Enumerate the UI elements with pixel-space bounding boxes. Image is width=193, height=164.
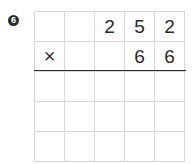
- multiplier-digit: 6: [125, 42, 155, 72]
- multiplier-digit: 6: [155, 42, 185, 72]
- grid-cell: [35, 12, 65, 42]
- answer-cell[interactable]: [155, 132, 185, 162]
- multiplicand-digit: 2: [95, 12, 125, 42]
- grid-cell: [95, 42, 125, 72]
- answer-cell[interactable]: [95, 72, 125, 102]
- answer-cell[interactable]: [65, 102, 95, 132]
- multiply-sign: ×: [35, 42, 65, 72]
- answer-cell[interactable]: [65, 72, 95, 102]
- multiplicand-digit: 5: [125, 12, 155, 42]
- answer-cell[interactable]: [125, 132, 155, 162]
- answer-cell[interactable]: [35, 102, 65, 132]
- answer-cell[interactable]: [35, 72, 65, 102]
- answer-cell[interactable]: [125, 72, 155, 102]
- multiplicand-digit: 2: [155, 12, 185, 42]
- answer-cell[interactable]: [95, 102, 125, 132]
- answer-cell[interactable]: [155, 72, 185, 102]
- answer-cell[interactable]: [155, 102, 185, 132]
- product-rule-line: [34, 70, 186, 71]
- answer-cell[interactable]: [35, 132, 65, 162]
- multiplication-grid: 2 5 2 × 6 6: [34, 11, 185, 162]
- grid-cell: [65, 12, 95, 42]
- problem-number-badge: 6: [8, 15, 19, 26]
- grid-cell: [65, 42, 95, 72]
- answer-cell[interactable]: [65, 132, 95, 162]
- answer-cell[interactable]: [125, 102, 155, 132]
- answer-cell[interactable]: [95, 132, 125, 162]
